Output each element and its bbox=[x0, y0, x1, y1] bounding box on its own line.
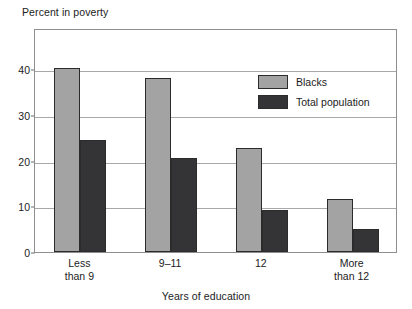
poverty-education-bar-chart: Percent in poverty 010203040 Lessthan 99… bbox=[0, 0, 412, 309]
legend-item-total-population: Total population bbox=[258, 93, 370, 110]
bar-total-population-group-4 bbox=[353, 229, 379, 252]
legend-label-blacks: Blacks bbox=[296, 76, 327, 88]
y-axis-tick-labels: 010203040 bbox=[0, 29, 30, 253]
plot-area bbox=[34, 29, 397, 253]
bar-total-population-group-1 bbox=[80, 140, 106, 252]
bar-total-population-group-3 bbox=[262, 210, 288, 252]
legend: BlacksTotal population bbox=[258, 73, 370, 113]
gridline-30 bbox=[35, 117, 396, 118]
x-axis-tick-labels: Lessthan 99–1112Morethan 12 bbox=[34, 257, 397, 289]
y-tick-label-10: 10 bbox=[6, 201, 30, 213]
legend-swatch-total-population bbox=[258, 95, 288, 109]
y-axis-title: Percent in poverty bbox=[22, 6, 108, 18]
legend-item-blacks: Blacks bbox=[258, 73, 370, 90]
legend-swatch-blacks bbox=[258, 75, 288, 89]
y-tick-label-30: 30 bbox=[6, 110, 30, 122]
legend-label-total-population: Total population bbox=[296, 96, 370, 108]
gridline-40 bbox=[35, 71, 396, 72]
x-tick-label-2: 9–11 bbox=[159, 257, 182, 270]
y-tick-label-20: 20 bbox=[6, 156, 30, 168]
x-tick-label-1: Lessthan 9 bbox=[65, 257, 94, 282]
y-tick-label-40: 40 bbox=[6, 64, 30, 76]
x-tick-label-3: 12 bbox=[255, 257, 267, 270]
x-axis-title: Years of education bbox=[0, 290, 412, 302]
y-tick-label-0: 0 bbox=[6, 247, 30, 259]
bar-total-population-group-2 bbox=[171, 158, 197, 252]
bar-blacks-group-1 bbox=[54, 68, 80, 252]
bar-blacks-group-2 bbox=[145, 78, 171, 252]
bar-blacks-group-4 bbox=[327, 199, 353, 252]
x-tick-label-4: Morethan 12 bbox=[334, 257, 369, 282]
bar-blacks-group-3 bbox=[236, 148, 262, 252]
